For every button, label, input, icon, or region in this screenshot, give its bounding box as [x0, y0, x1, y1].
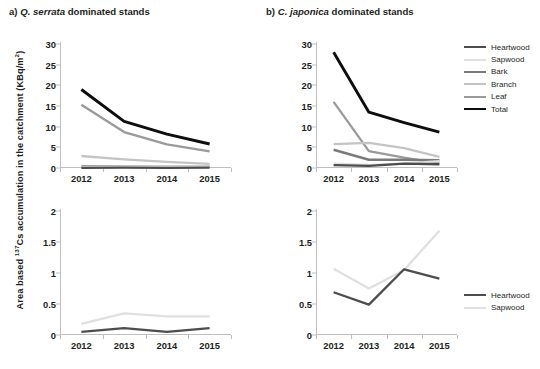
- plot-area-c: 00.511.522012201320142015: [60, 211, 231, 335]
- x-tick-label: 2012: [323, 340, 344, 351]
- x-tick-label: 2012: [71, 173, 92, 184]
- x-tick-label: 2014: [156, 340, 177, 351]
- series-line-branch: [81, 156, 209, 164]
- y-tick-label: 1.5: [299, 237, 312, 248]
- x-tick-mark: [231, 335, 232, 339]
- y-tick-label: 25: [302, 59, 312, 70]
- legend-label: Heartwood: [491, 43, 530, 52]
- y-tick-label: 20: [46, 80, 56, 91]
- chart-panel-a: 0510152025302012201320142015: [28, 38, 233, 196]
- series-layer-a: [60, 44, 231, 168]
- x-tick-mark: [387, 335, 388, 339]
- x-tick-label: 2012: [71, 340, 92, 351]
- panel-a-title-suffix: dominated stands: [65, 6, 150, 17]
- x-tick-mark: [60, 168, 61, 172]
- x-tick-mark: [188, 335, 189, 339]
- y-tick-label: 15: [46, 101, 56, 112]
- legend-swatch-icon: [464, 108, 486, 110]
- legend-top-item-leaf[interactable]: Leaf: [464, 91, 530, 103]
- x-tick-mark: [422, 335, 423, 339]
- y-tick-label: 20: [302, 80, 312, 91]
- legend-label: Leaf: [491, 92, 507, 101]
- x-tick-mark: [146, 335, 147, 339]
- x-tick-label: 2012: [323, 173, 344, 184]
- x-tick-label: 2013: [114, 340, 135, 351]
- x-tick-label: 2014: [394, 340, 415, 351]
- y-tick-label: 0.5: [43, 299, 56, 310]
- x-tick-label: 2015: [429, 173, 450, 184]
- x-tick-mark: [422, 168, 423, 172]
- x-tick-mark: [351, 335, 352, 339]
- y-tick-label: 10: [302, 121, 312, 132]
- legend-top-item-heartwood[interactable]: Heartwood: [464, 41, 530, 53]
- legend-swatch-icon: [464, 71, 486, 73]
- series-line-total: [334, 52, 440, 132]
- x-tick-label: 2013: [358, 173, 379, 184]
- x-tick-label: 2015: [429, 340, 450, 351]
- panel-b-title: b) C. japonica dominated stands: [266, 6, 414, 17]
- legend-bottom: HeartwoodSapwood: [464, 289, 530, 314]
- unit-exponent: 2: [13, 54, 20, 58]
- legend-bottom-item-heartwood[interactable]: Heartwood: [464, 289, 530, 301]
- legend-top-item-sapwood[interactable]: Sapwood: [464, 53, 530, 65]
- x-tick-mark: [316, 335, 317, 339]
- y-axis-title-pre: Area based: [15, 256, 25, 309]
- x-tick-label: 2013: [114, 173, 135, 184]
- x-tick-label: 2014: [156, 173, 177, 184]
- legend-label: Total: [491, 105, 508, 114]
- y-tick-label: 0.5: [299, 299, 312, 310]
- plot-area-a: 0510152025302012201320142015: [60, 44, 231, 168]
- x-tick-mark: [316, 168, 317, 172]
- x-tick-mark: [351, 168, 352, 172]
- panel-a-species: Q. serrata: [20, 6, 65, 17]
- legend-top-item-branch[interactable]: Branch: [464, 78, 530, 90]
- x-tick-mark: [60, 335, 61, 339]
- panel-b-title-prefix: b): [266, 6, 278, 17]
- legend-bottom-item-sapwood[interactable]: Sapwood: [464, 301, 530, 313]
- x-tick-mark: [231, 168, 232, 172]
- panel-b-title-suffix: dominated stands: [329, 6, 414, 17]
- chart-panel-c: 00.511.522012201320142015: [28, 205, 233, 363]
- series-layer-c: [60, 211, 231, 335]
- figure-root: Area based 137Cs accumulation in the cat…: [0, 0, 540, 369]
- x-tick-mark: [103, 335, 104, 339]
- y-axis-title-tail: ): [15, 51, 25, 54]
- x-tick-mark: [457, 335, 458, 339]
- plot-area-b: 0510152025302012201320142015: [316, 44, 457, 168]
- legend-swatch-icon: [464, 96, 486, 98]
- x-tick-mark: [457, 168, 458, 172]
- y-axis-title-post: Cs accumulation in the catchment (KBq/m: [15, 57, 25, 245]
- x-tick-label: 2013: [358, 340, 379, 351]
- y-tick-label: 1.5: [43, 237, 56, 248]
- legend-swatch-icon: [464, 294, 486, 296]
- series-line-sapwood: [334, 231, 440, 289]
- y-tick-label: 15: [302, 101, 312, 112]
- legend-top-item-total[interactable]: Total: [464, 103, 530, 115]
- legend-swatch-icon: [464, 83, 486, 85]
- series-layer-d: [316, 211, 457, 335]
- legend-top-item-bark[interactable]: Bark: [464, 66, 530, 78]
- legend-top: HeartwoodSapwoodBarkBranchLeafTotal: [464, 41, 530, 115]
- series-line-heartwood: [81, 328, 209, 332]
- series-line-sapwood: [81, 313, 209, 324]
- chart-panel-d: 00.511.522012201320142015: [284, 205, 459, 363]
- x-tick-mark: [387, 168, 388, 172]
- y-tick-label: 25: [46, 59, 56, 70]
- panel-a-title-prefix: a): [9, 6, 20, 17]
- x-tick-label: 2015: [199, 340, 220, 351]
- legend-label: Branch: [491, 80, 516, 89]
- legend-label: Sapwood: [491, 55, 524, 64]
- legend-label: Sapwood: [491, 303, 524, 312]
- chart-panel-b: 0510152025302012201320142015: [284, 38, 459, 196]
- legend-swatch-icon: [464, 307, 486, 309]
- y-tick-label: 30: [302, 39, 312, 50]
- legend-swatch-icon: [464, 59, 486, 61]
- legend-label: Bark: [491, 67, 507, 76]
- y-tick-label: 10: [46, 121, 56, 132]
- legend-label: Heartwood: [491, 291, 530, 300]
- series-line-heartwood: [334, 269, 440, 304]
- x-tick-label: 2014: [394, 173, 415, 184]
- isotope-mass-number: 137: [13, 246, 20, 257]
- panel-b-species: C. japonica: [278, 6, 329, 17]
- legend-swatch-icon: [464, 46, 486, 48]
